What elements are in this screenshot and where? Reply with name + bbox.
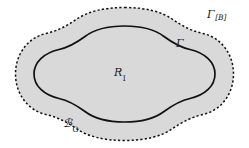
outer-dashed-boundary-label: Γ[B] — [207, 9, 226, 20]
interior-region-label-base: R — [114, 66, 122, 79]
outer-region-label: ℬO — [63, 118, 78, 132]
outer-region-label-base: ℬ — [63, 116, 72, 130]
interior-region-label: RI — [114, 67, 125, 81]
interior-region-label-subscript: I — [123, 74, 126, 83]
figure-container: Γ[B] Γ RI ℬO — [0, 0, 249, 148]
outer-boundary-label-subscript: [B] — [215, 13, 226, 22]
inner-boundary-label-base: Γ — [176, 37, 184, 50]
outer-region-label-subscript: O — [73, 125, 79, 134]
outer-boundary-label-base: Γ — [207, 8, 215, 21]
inner-solid-boundary-label: Γ — [176, 38, 184, 49]
